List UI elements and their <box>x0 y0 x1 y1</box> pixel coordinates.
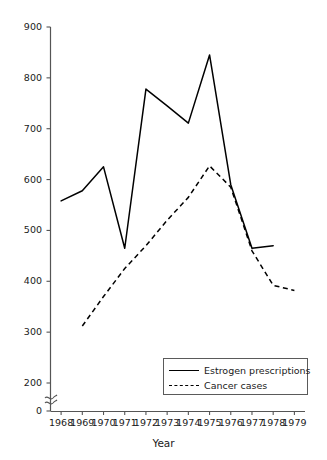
y-tick-label: 500 <box>12 225 42 235</box>
legend-item-cancer-cases: Cancer cases <box>169 378 267 392</box>
legend: Estrogen prescriptions Cancer cases <box>163 358 308 395</box>
x-tick-label: 1979 <box>279 418 309 428</box>
series-line-cancer-cases <box>82 166 294 326</box>
legend-item-estrogen-prescriptions: Estrogen prescriptions <box>169 363 311 377</box>
y-tick-label: 200 <box>12 378 42 388</box>
legend-swatch-solid-line-icon <box>169 365 199 375</box>
y-tick-label: 800 <box>12 73 42 83</box>
y-tick-label: 400 <box>12 276 42 286</box>
legend-label: Estrogen prescriptions <box>204 365 311 376</box>
y-tick-label: 900 <box>12 22 42 32</box>
legend-swatch-dashed-line-icon <box>169 380 199 390</box>
line-chart: 0200300400500600700800900 19681969197019… <box>0 0 327 460</box>
y-tick-label: 300 <box>12 327 42 337</box>
x-axis-title: Year <box>0 437 327 449</box>
y-tick-label: 600 <box>12 175 42 185</box>
axis-lines <box>51 27 306 412</box>
y-tick-label: 0 <box>12 406 42 416</box>
y-tick-label: 700 <box>12 124 42 134</box>
legend-label: Cancer cases <box>204 380 267 391</box>
